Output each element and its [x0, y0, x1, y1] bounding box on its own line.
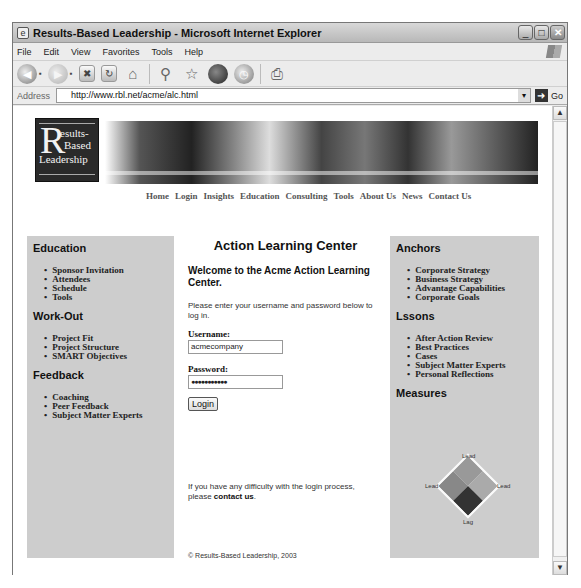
- toolbar: ◀ ▪ ▶ ▪ ✖ ↻ ⌂ ⚲ ☆ ◷ ⎙: [13, 61, 567, 87]
- section-heading-work-out: Work-Out: [33, 310, 174, 322]
- help-text-end: .: [254, 492, 256, 501]
- header-banner-image: [105, 121, 538, 184]
- section-heading-measures: Measures: [396, 387, 539, 399]
- diagram-label-bottom: Lag: [463, 519, 473, 525]
- rbl-logo[interactable]: R esults- Based Leadership: [35, 118, 99, 182]
- window-title: Results-Based Leadership - Microsoft Int…: [33, 27, 518, 39]
- left-sidebar: Education Sponsor Invitation Attendees S…: [27, 236, 174, 558]
- maximize-button[interactable]: □: [534, 25, 549, 40]
- nav-home[interactable]: Home: [146, 191, 169, 201]
- toolbar-divider: [149, 64, 150, 84]
- site-nav: Home Login Insights Education Consulting…: [146, 191, 471, 201]
- nav-contact-us[interactable]: Contact Us: [429, 191, 472, 201]
- link-subject-matter-experts[interactable]: Subject Matter Experts: [53, 411, 174, 420]
- link-corporate-goals[interactable]: Corporate Goals: [416, 293, 539, 302]
- back-icon[interactable]: ◀: [17, 64, 37, 84]
- username-label: Username:: [188, 329, 383, 339]
- favorites-icon[interactable]: ☆: [182, 64, 202, 84]
- login-help-text: If you have any difficulty with the logi…: [188, 482, 378, 502]
- scroll-down-icon[interactable]: ▼: [553, 561, 567, 575]
- section-heading-anchors: Anchors: [396, 242, 539, 254]
- contact-us-link[interactable]: contact us: [214, 492, 254, 501]
- ie-icon: e: [17, 27, 29, 39]
- forward-dropdown-icon[interactable]: ▪: [70, 69, 73, 78]
- media-icon[interactable]: [208, 64, 228, 84]
- back-dropdown-icon[interactable]: ▪: [39, 69, 42, 78]
- close-button[interactable]: ✕: [550, 25, 565, 40]
- password-input[interactable]: ●●●●●●●●●●●: [188, 375, 283, 389]
- diagram-label-right: Lead: [497, 483, 510, 489]
- title-bar[interactable]: e Results-Based Leadership - Microsoft I…: [13, 23, 567, 43]
- section-heading-lessons: Lssons: [396, 310, 539, 322]
- nav-about-us[interactable]: About Us: [360, 191, 396, 201]
- forward-icon[interactable]: ▶: [48, 64, 68, 84]
- section-heading-feedback: Feedback: [33, 369, 174, 381]
- banner-stripe: [105, 171, 538, 175]
- menu-file[interactable]: File: [17, 47, 32, 57]
- toolbar-divider: [260, 64, 261, 84]
- measures-diagram[interactable]: Lead Lead Lead Lag: [423, 441, 513, 531]
- browser-window: e Results-Based Leadership - Microsoft I…: [12, 22, 568, 575]
- login-instructions: Please enter your username and password …: [188, 301, 383, 321]
- link-tools[interactable]: Tools: [53, 293, 174, 302]
- go-arrow-icon: ➜: [535, 89, 548, 102]
- logo-line1: esults-: [60, 127, 89, 139]
- logo-rule: [39, 174, 95, 175]
- search-icon[interactable]: ⚲: [156, 64, 176, 84]
- link-smart-objectives[interactable]: SMART Objectives: [53, 352, 174, 361]
- diamond-shape: [435, 453, 500, 518]
- menu-favorites[interactable]: Favorites: [102, 47, 139, 57]
- login-content: Action Learning Center Welcome to the Ac…: [188, 236, 383, 411]
- menu-bar: File Edit View Favorites Tools Help: [13, 43, 567, 61]
- menu-tools[interactable]: Tools: [151, 47, 172, 57]
- nav-consulting[interactable]: Consulting: [286, 191, 328, 201]
- page-viewport: R esults- Based Leadership Home Login In…: [13, 106, 553, 575]
- vertical-scrollbar[interactable]: ▲ ▼: [552, 106, 567, 575]
- password-label: Password:: [188, 364, 383, 374]
- menu-help[interactable]: Help: [184, 47, 203, 57]
- address-url: http://www.rbl.net/acme/alc.html: [71, 90, 198, 100]
- welcome-heading: Welcome to the Acme Action Learning Cent…: [188, 265, 383, 289]
- login-button[interactable]: Login: [188, 397, 218, 411]
- scroll-thumb[interactable]: [553, 121, 567, 557]
- stop-icon[interactable]: ✖: [79, 65, 95, 82]
- nav-education[interactable]: Education: [240, 191, 280, 201]
- page-title: Action Learning Center: [188, 238, 383, 253]
- nav-insights[interactable]: Insights: [204, 191, 235, 201]
- home-icon[interactable]: ⌂: [123, 64, 143, 84]
- logo-line3: Leadership: [39, 153, 88, 165]
- print-icon[interactable]: ⎙: [267, 64, 287, 84]
- nav-login[interactable]: Login: [175, 191, 198, 201]
- minimize-button[interactable]: _: [518, 25, 533, 40]
- go-label: Go: [551, 91, 563, 101]
- address-dropdown-icon[interactable]: ▾: [518, 89, 530, 102]
- refresh-icon[interactable]: ↻: [101, 65, 117, 82]
- address-label: Address: [17, 91, 50, 101]
- go-button[interactable]: ➜ Go: [535, 89, 563, 102]
- diagram-label-top: Lead: [462, 453, 475, 459]
- username-input[interactable]: acmecompany: [188, 340, 283, 354]
- menu-edit[interactable]: Edit: [44, 47, 60, 57]
- diagram-label-left: Lead: [425, 483, 438, 489]
- history-icon[interactable]: ◷: [234, 64, 254, 84]
- nav-tools[interactable]: Tools: [334, 191, 354, 201]
- address-bar: Address http://www.rbl.net/acme/alc.html…: [13, 87, 567, 105]
- link-personal-reflections[interactable]: Personal Reflections: [416, 370, 539, 379]
- address-input[interactable]: http://www.rbl.net/acme/alc.html ▾: [56, 88, 531, 103]
- logo-rule: [39, 123, 95, 124]
- menu-view[interactable]: View: [71, 47, 90, 57]
- section-heading-education: Education: [33, 242, 174, 254]
- nav-news[interactable]: News: [402, 191, 423, 201]
- windows-logo-icon: [546, 45, 562, 58]
- scroll-up-icon[interactable]: ▲: [553, 106, 567, 120]
- copyright: © Results-Based Leadership, 2003: [188, 552, 297, 559]
- logo-line2: Based: [64, 139, 91, 151]
